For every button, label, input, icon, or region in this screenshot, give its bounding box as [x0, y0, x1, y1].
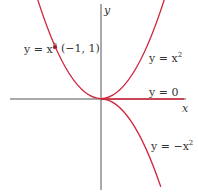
label-y-neg-x-squared: y = −x2: [151, 140, 193, 152]
y-axis-label: y: [104, 5, 110, 16]
figure: y x y = x2 (−1, 1) y = x2 y = 0 y = −x2: [0, 0, 198, 195]
x-axis-label: x: [182, 103, 188, 114]
point-label: (−1, 1): [61, 43, 100, 54]
label-right-y-x-squared: y = x2: [149, 52, 182, 64]
label-left-y-x-squared: y = x2: [24, 43, 57, 55]
label-y-zero: y = 0: [149, 87, 178, 98]
